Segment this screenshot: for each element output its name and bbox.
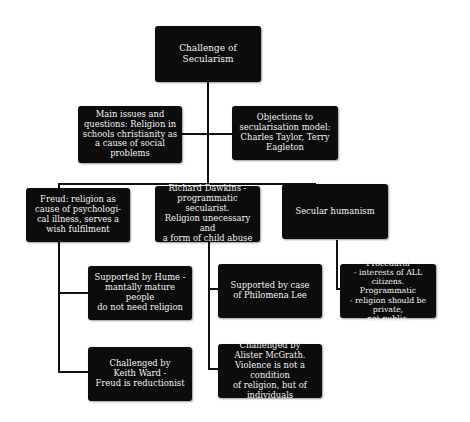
node-philomena-text: Supported by case of Philomena Lee xyxy=(231,281,310,301)
connector-dawkins-trunk xyxy=(208,240,210,370)
node-mcgrath-text: Challenged by Alister McGrath. Violence … xyxy=(222,341,318,400)
node-secular-humanism-text: Secular humanism xyxy=(295,207,374,217)
node-philomena: Supported by case of Philomena Lee xyxy=(218,264,322,318)
connector-to-philomena xyxy=(208,288,218,290)
node-root: Challenge of Secularism xyxy=(155,26,261,82)
connector-to-hume xyxy=(58,292,88,294)
connector-to-mcgrath xyxy=(208,368,218,370)
node-mcgrath: Challenged by Alister McGrath. Violence … xyxy=(218,344,322,398)
node-ward: Challenged by Keith Ward - Freud is redu… xyxy=(88,347,192,401)
node-ward-text: Challenged by Keith Ward - Freud is redu… xyxy=(95,359,184,389)
node-freud: Freud: religion as cause of psychologi- … xyxy=(26,188,130,242)
node-hume-text: Supported by Hume - mantally mature peop… xyxy=(92,273,188,313)
node-procedural: Procedural - interests of ALL citizens. … xyxy=(340,264,436,318)
node-issues-text: Main issues and questions: Religion in s… xyxy=(83,110,177,160)
node-dawkins-text: Richard Dawkins - programmatic secularis… xyxy=(159,184,256,243)
node-secular-humanism: Secular humanism xyxy=(282,184,388,239)
node-objections: Objections to secularisation model: Char… xyxy=(232,106,338,160)
node-freud-text: Freud: religion as cause of psychologi- … xyxy=(35,195,121,235)
node-procedural-text: Procedural - interests of ALL citizens. … xyxy=(344,259,432,323)
connector-freud-trunk xyxy=(58,240,60,372)
node-objections-text: Objections to secularisation model: Char… xyxy=(240,113,331,153)
node-hume: Supported by Hume - mantally mature peop… xyxy=(88,266,192,320)
connector-humanism-trunk xyxy=(336,240,338,290)
node-dawkins: Richard Dawkins - programmatic secularis… xyxy=(155,186,260,242)
node-root-text: Challenge of Secularism xyxy=(179,43,237,64)
node-issues: Main issues and questions: Religion in s… xyxy=(78,106,182,163)
connector-to-ward xyxy=(58,371,88,373)
connector-issues-objections xyxy=(182,133,232,135)
